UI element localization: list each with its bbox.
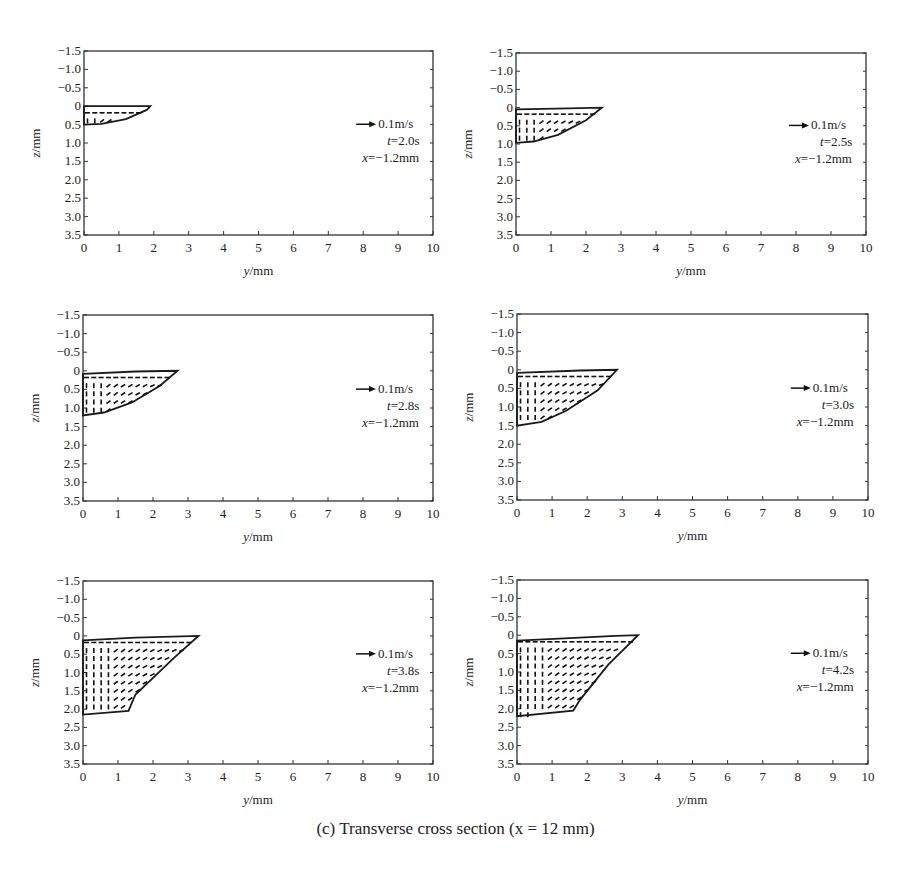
y-tick-label: 1.0 <box>497 136 513 151</box>
x-tick-label: 2 <box>151 240 158 255</box>
y-tick-label: −0.5 <box>57 80 81 95</box>
position-label: x=−1.2mm <box>361 415 419 430</box>
y-tick-label: 0.5 <box>64 646 80 661</box>
y-tick-label: −1.5 <box>56 307 80 322</box>
x-tick-label: 3 <box>185 240 192 255</box>
x-tick-label: 7 <box>325 769 332 784</box>
position-label: x=−1.2mm <box>361 680 419 695</box>
chart-panel-2: 012345678910−1.5−1.0−0.500.51.01.52.02.5… <box>460 45 873 278</box>
x-tick-label: 2 <box>150 506 157 521</box>
x-tick-label: 10 <box>862 505 875 520</box>
time-label: t=4.2s <box>822 662 854 677</box>
time-label: t=3.0s <box>822 397 854 412</box>
y-tick-label: 2.0 <box>64 437 80 452</box>
velocity-vectors <box>84 642 191 709</box>
x-tick-label: 6 <box>290 240 297 255</box>
x-tick-label: 3 <box>619 769 626 784</box>
x-tick-label: 0 <box>80 506 87 521</box>
y-tick-label: 2.0 <box>498 436 514 451</box>
y-tick-label: 2.0 <box>498 701 514 716</box>
y-tick-label: 3.5 <box>65 227 81 242</box>
x-axis-label: y/mm <box>676 792 708 807</box>
y-tick-label: 2.0 <box>497 172 513 187</box>
x-tick-label: 4 <box>653 240 660 255</box>
x-tick-label: 5 <box>255 506 262 521</box>
x-tick-label: 10 <box>860 240 873 255</box>
reference-vector-legend: 0.1m/st=4.2sx=−1.2mm <box>791 645 854 694</box>
time-label: t=2.5s <box>820 134 852 149</box>
y-tick-label: −0.5 <box>56 344 80 359</box>
x-tick-label: 4 <box>220 769 227 784</box>
x-tick-label: 8 <box>360 769 367 784</box>
y-axis-label: z/mm <box>28 129 43 159</box>
y-tick-label: 0 <box>75 98 82 113</box>
y-tick-label: −1.0 <box>490 590 514 605</box>
x-tick-label: 7 <box>325 506 332 521</box>
x-tick-label: 8 <box>795 769 802 784</box>
y-tick-label: 1.0 <box>498 664 514 679</box>
y-tick-label: 1.5 <box>498 418 514 433</box>
x-tick-label: 6 <box>290 769 297 784</box>
reference-vector-label: 0.1m/s <box>378 381 413 396</box>
x-tick-label: 5 <box>689 769 696 784</box>
y-tick-label: 1.0 <box>498 399 514 414</box>
y-tick-label: 1.5 <box>65 153 81 168</box>
y-tick-label: 3.5 <box>498 756 514 771</box>
x-tick-label: 3 <box>619 505 626 520</box>
reference-vector-label: 0.1m/s <box>378 646 413 661</box>
y-tick-label: 3.0 <box>498 473 514 488</box>
x-tick-label: 10 <box>427 506 440 521</box>
y-tick-label: 0 <box>508 627 515 642</box>
x-tick-label: 2 <box>583 240 590 255</box>
y-tick-label: 0 <box>74 363 81 378</box>
y-tick-label: 0.5 <box>64 381 80 396</box>
reference-vector-label: 0.1m/s <box>378 116 413 131</box>
y-tick-label: 0.5 <box>498 646 514 661</box>
y-tick-label: 2.5 <box>64 456 80 471</box>
y-tick-label: 0 <box>74 628 81 643</box>
y-tick-label: 2.5 <box>498 719 514 734</box>
x-tick-label: 10 <box>427 240 440 255</box>
y-tick-label: 1.5 <box>64 683 80 698</box>
chart-panel-3: 012345678910−1.5−1.0−0.500.51.01.52.02.5… <box>27 307 440 544</box>
y-tick-label: 3.5 <box>64 756 80 771</box>
position-label: x=−1.2mm <box>796 679 854 694</box>
position-label: x=−1.2mm <box>796 414 854 429</box>
x-tick-label: 5 <box>255 240 262 255</box>
x-tick-label: 10 <box>427 769 440 784</box>
y-tick-label: 1.5 <box>64 419 80 434</box>
chart-panel-1: 012345678910−1.5−1.0−0.500.51.01.52.02.5… <box>28 43 440 278</box>
chart-panel-5: 012345678910−1.5−1.0−0.500.51.01.52.02.5… <box>27 573 440 807</box>
y-tick-label: 2.5 <box>497 191 513 206</box>
x-tick-label: 4 <box>220 240 227 255</box>
y-tick-label: 2.0 <box>64 701 80 716</box>
y-axis-label: z/mm <box>460 130 475 160</box>
plot-frame <box>517 314 868 500</box>
y-tick-label: −1.0 <box>489 63 513 78</box>
vector-field-figure: 012345678910−1.5−1.0−0.500.51.01.52.02.5… <box>0 0 911 878</box>
plot-frame <box>83 315 433 501</box>
plot-frame <box>84 51 433 235</box>
x-tick-label: 9 <box>830 769 837 784</box>
x-tick-label: 5 <box>689 505 696 520</box>
x-tick-label: 6 <box>723 240 730 255</box>
y-tick-label: −1.0 <box>56 326 80 341</box>
melt-pool-boundary <box>84 106 150 124</box>
y-tick-label: 1.0 <box>65 135 81 150</box>
time-label: t=2.0s <box>387 133 419 148</box>
reference-vector-legend: 0.1m/st=2.5sx=−1.2mm <box>789 117 852 166</box>
y-tick-label: 2.0 <box>65 172 81 187</box>
reference-vector-legend: 0.1m/st=3.0sx=−1.2mm <box>791 380 854 429</box>
plot-frame <box>516 53 866 235</box>
velocity-vectors <box>517 114 595 141</box>
y-tick-label: 3.5 <box>64 493 80 508</box>
x-tick-label: 4 <box>220 506 227 521</box>
x-tick-label: 8 <box>360 506 367 521</box>
y-tick-label: −0.5 <box>489 81 513 96</box>
x-tick-label: 2 <box>584 505 591 520</box>
y-tick-label: −1.5 <box>57 43 81 58</box>
x-tick-label: 1 <box>115 506 122 521</box>
x-tick-label: 7 <box>759 505 766 520</box>
y-tick-label: 1.0 <box>64 400 80 415</box>
x-tick-label: 0 <box>80 769 87 784</box>
